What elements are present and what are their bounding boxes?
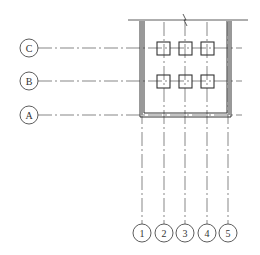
column-axis-bubbles: 1 2 3 4 5: [133, 224, 237, 242]
axis-bubble-5: 5: [219, 224, 237, 242]
row-axis-bubbles: C B A: [20, 39, 38, 124]
column-B2: [157, 75, 170, 88]
grid-plan-diagram: C B A 1 2 3 4 5: [0, 0, 260, 255]
column-B4: [201, 75, 214, 88]
svg-text:5: 5: [226, 228, 231, 239]
svg-text:2: 2: [162, 228, 167, 239]
svg-text:3: 3: [183, 228, 188, 239]
axis-bubble-3: 3: [176, 224, 194, 242]
axis-bubble-B: B: [20, 72, 38, 90]
column-C2: [157, 42, 170, 55]
axis-bubble-C: C: [20, 39, 38, 57]
svg-text:C: C: [26, 43, 33, 54]
svg-text:4: 4: [205, 228, 210, 239]
column-axes: [142, 22, 228, 224]
column-C4: [201, 42, 214, 55]
svg-text:B: B: [26, 76, 33, 87]
svg-text:A: A: [25, 110, 33, 121]
column-B3: [179, 75, 192, 88]
svg-text:1: 1: [140, 228, 145, 239]
column-C3: [179, 42, 192, 55]
axis-bubble-4: 4: [198, 224, 216, 242]
axis-bubble-2: 2: [155, 224, 173, 242]
axis-bubble-A: A: [20, 106, 38, 124]
u-shaped-wall: [140, 21, 231, 117]
axis-bubble-1: 1: [133, 224, 151, 242]
